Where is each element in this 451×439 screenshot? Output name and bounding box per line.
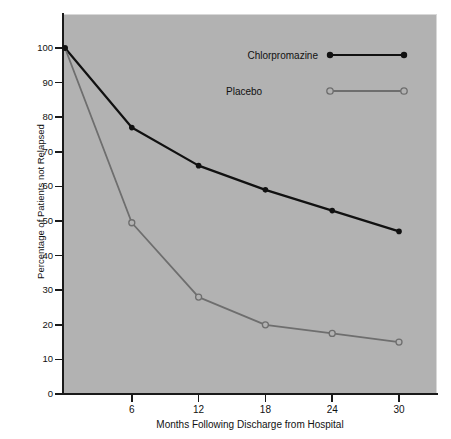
legend-item-chlorpromazine: Chlorpromazine (226, 48, 406, 62)
x-tick-label-12: 12 (184, 404, 214, 415)
y-tick-label-60: 60 (0, 181, 63, 191)
x-tick-24 (331, 394, 333, 402)
x-tick-label-24: 24 (317, 404, 347, 415)
y-tick-label-50: 50 (0, 216, 63, 226)
y-axis-spine (62, 13, 64, 395)
y-tick-label-90: 90 (0, 78, 63, 88)
y-tick-text: 0 (27, 389, 53, 399)
x-tick-30 (398, 394, 400, 402)
y-tick-text: 100 (27, 43, 53, 53)
y-tick-text: 20 (27, 320, 53, 330)
y-tick-label-70: 70 (0, 147, 63, 157)
x-axis-spine (62, 393, 438, 395)
y-tick-label-100: 100 (0, 43, 63, 53)
legend-sample-placebo (324, 84, 410, 98)
y-tick-label-10: 10 (0, 354, 63, 364)
y-axis-title: Percentage of Patients not Relapsed (35, 92, 46, 312)
x-tick-18 (265, 394, 267, 402)
legend-label-placebo: Placebo (226, 86, 318, 97)
plot-area (63, 14, 437, 394)
legend-sample-chlorpromazine (324, 48, 410, 62)
x-tick-12 (198, 394, 200, 402)
x-tick-label-30: 30 (384, 404, 414, 415)
x-axis-title: Months Following Discharge from Hospital (63, 419, 437, 430)
y-tick-label-0: 0 (0, 389, 63, 399)
legend-item-placebo: Placebo (226, 84, 406, 98)
y-tick-label-30: 30 (0, 285, 63, 295)
relapse-line-chart: 0102030405060708090100 612182430 Percent… (0, 0, 451, 439)
y-tick-label-20: 20 (0, 320, 63, 330)
y-tick-label-80: 80 (0, 112, 63, 122)
x-tick-label-18: 18 (250, 404, 280, 415)
y-tick-text: 90 (27, 78, 53, 88)
x-tick-label-6: 6 (117, 404, 147, 415)
y-tick-label-40: 40 (0, 251, 63, 261)
y-tick-text: 10 (27, 354, 53, 364)
x-tick-6 (131, 394, 133, 402)
legend-label-chlorpromazine: Chlorpromazine (226, 50, 318, 61)
